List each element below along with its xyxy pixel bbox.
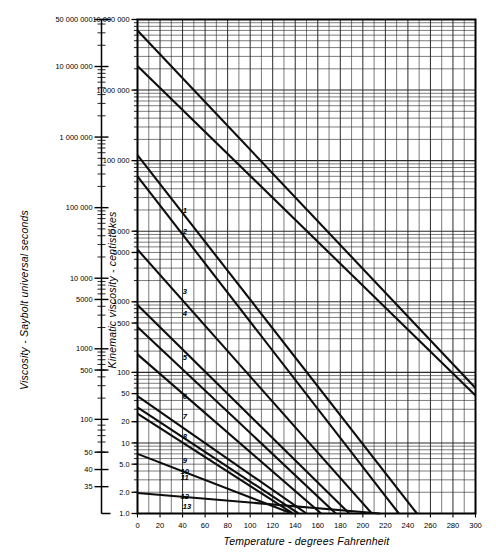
x-tick-label: 60	[201, 521, 209, 530]
x-tick-label: 40	[178, 521, 186, 530]
saybolt-tick-label: 100 000	[66, 203, 93, 212]
y-axis-title-saybolt: Viscosity - Saybolt universal seconds	[18, 209, 30, 390]
saybolt-tick-label: 40	[84, 465, 92, 474]
x-tick-label: 0	[135, 521, 139, 530]
x-tick-label: 160	[311, 521, 324, 530]
chart-svg: 1234567891011121310 000 0001 000 000100 …	[0, 0, 496, 560]
x-tick-label: 120	[266, 521, 279, 530]
x-tick-label: 180	[334, 521, 347, 530]
centistokes-tick-label: 10	[121, 439, 129, 448]
x-tick-label: 140	[289, 521, 302, 530]
centistokes-tick-label: 2.0	[119, 488, 129, 497]
centistokes-tick-label: 100	[117, 368, 129, 377]
saybolt-tick-label: 1000	[76, 344, 92, 353]
saybolt-tick-label: 50	[84, 448, 92, 457]
x-tick-label: 240	[402, 521, 415, 530]
centistokes-tick-label: 5.0	[119, 460, 129, 469]
viscosity-temperature-chart: 1234567891011121310 000 0001 000 000100 …	[0, 0, 496, 560]
centistokes-tick-label: 1.0	[119, 509, 129, 518]
x-tick-label: 260	[424, 521, 437, 530]
saybolt-tick-label: 10 000	[70, 274, 93, 283]
centistokes-tick-label: 50	[121, 389, 129, 398]
centistokes-tick-label: 100 000	[103, 156, 130, 165]
x-tick-label: 200	[356, 521, 369, 530]
curve-label-1: 1	[183, 206, 187, 215]
x-tick-label: 100	[244, 521, 257, 530]
curve-label-2: 2	[182, 227, 188, 236]
x-tick-label: 80	[223, 521, 231, 530]
x-tick-label: 280	[447, 521, 460, 530]
centistokes-tick-label: 500	[117, 319, 129, 328]
curve-label-13: 13	[183, 502, 192, 511]
saybolt-tick-label: 35	[84, 482, 92, 491]
x-tick-label: 20	[156, 521, 164, 530]
curve-label-4: 4	[182, 309, 188, 318]
saybolt-tick-label: 50 000 000	[56, 15, 93, 24]
x-tick-label: 300	[469, 521, 482, 530]
saybolt-tick-label: 100	[80, 415, 92, 424]
saybolt-tick-label: 10 000 000	[56, 62, 93, 71]
centistokes-tick-label: 20	[121, 417, 129, 426]
x-tick-label: 220	[379, 521, 392, 530]
saybolt-tick-label: 1 000 000	[60, 133, 93, 142]
y-axis-title-centistokes: Kinematic viscosity - centistokes	[106, 211, 118, 369]
saybolt-tick-label: 5000	[76, 295, 92, 304]
saybolt-tick-label: 500	[80, 366, 92, 375]
curve-label-11: 11	[181, 473, 189, 482]
curve-label-12: 12	[181, 492, 190, 501]
x-axis-title: Temperature - degrees Fahrenheit	[224, 535, 391, 547]
